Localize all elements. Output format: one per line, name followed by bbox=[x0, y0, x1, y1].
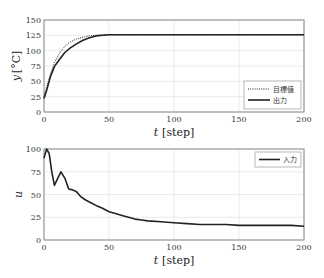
y-tick-label: 25 bbox=[31, 93, 41, 102]
x-tick-label: 0 bbox=[41, 115, 46, 124]
y-axis-label: y[°C] bbox=[10, 51, 23, 83]
y-tick-label: 75 bbox=[31, 62, 41, 71]
y-tick-label: 0 bbox=[36, 236, 41, 245]
legend-label-output: 出力 bbox=[273, 96, 287, 105]
y-tick-label: 0 bbox=[36, 108, 41, 117]
y-axis-label: u bbox=[12, 191, 25, 198]
y-tick-label: 75 bbox=[31, 168, 41, 177]
y-tick-label: 50 bbox=[31, 77, 41, 86]
chart-figure: 0501001502000255075100125150t[step]y[°C]… bbox=[0, 0, 324, 278]
x-tick-label: 0 bbox=[41, 243, 46, 252]
y-tick-label: 50 bbox=[31, 191, 41, 200]
y-tick-label: 100 bbox=[26, 47, 41, 56]
bottom-plot: 0501001502000255075100t[step]u入力 bbox=[12, 145, 312, 267]
x-tick-label: 150 bbox=[231, 243, 246, 252]
legend-label-input: 入力 bbox=[283, 155, 297, 164]
x-tick-label: 200 bbox=[296, 243, 311, 252]
legend-top: 目標値出力 bbox=[244, 81, 301, 109]
top-plot: 0501001502000255075100125150t[step]y[°C]… bbox=[10, 16, 312, 139]
x-tick-label: 100 bbox=[166, 115, 181, 124]
x-axis-label: t[step] bbox=[154, 126, 195, 139]
x-tick-label: 50 bbox=[104, 243, 114, 252]
y-tick-label: 125 bbox=[26, 31, 41, 40]
x-tick-label: 100 bbox=[166, 243, 181, 252]
y-tick-label: 150 bbox=[26, 16, 41, 25]
y-tick-label: 25 bbox=[31, 213, 41, 222]
legend-bottom: 入力 bbox=[255, 152, 301, 167]
y-tick-label: 100 bbox=[26, 145, 41, 154]
x-tick-label: 50 bbox=[104, 115, 114, 124]
x-tick-label: 200 bbox=[296, 115, 311, 124]
x-axis-label: t[step] bbox=[154, 254, 195, 267]
legend-label-target: 目標値 bbox=[273, 85, 294, 94]
x-tick-label: 150 bbox=[231, 115, 246, 124]
